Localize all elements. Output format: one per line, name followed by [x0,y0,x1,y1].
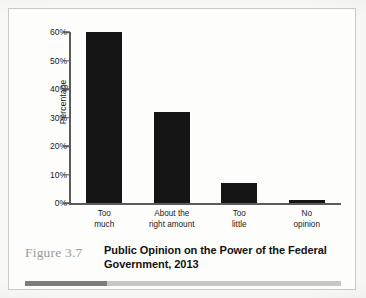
figure-title: Public Opinion on the Power of the Feder… [104,244,350,271]
y-axis-tick-mark [63,60,70,62]
bar-slot [221,32,257,203]
figure-title-line-1: Public Opinion on the Power of the [104,244,285,256]
bar-slot [289,32,325,203]
caption-rule [25,281,341,286]
figure-number: Figure 3.7 [25,245,83,261]
bar-chart: Percentage 0%10%20%30%40%50%60% ToomuchA… [9,9,357,241]
y-axis-tick-mark [63,88,70,90]
y-axis-tick-mark [63,31,70,33]
x-axis-category-label: Toomuch [71,209,139,230]
figure-caption: Figure 3.7 Public Opinion on the Power o… [9,241,357,291]
caption-rule-dark-segment [25,281,107,286]
y-axis-tick-label: 10% [33,170,67,180]
y-axis-tick-label: 40% [33,84,67,94]
bar [221,183,257,203]
bar-slot [154,32,190,203]
y-axis-tick-label: 0% [33,198,67,208]
x-axis-category-label: Toolittle [206,209,274,230]
y-axis-tick-mark [63,202,70,204]
y-axis-tick-label: 60% [33,27,67,37]
bar [154,112,190,203]
x-axis-line [69,203,341,205]
y-axis-tick-label: 30% [33,113,67,123]
y-axis-tick-mark [63,117,70,119]
y-axis-tick-label: 20% [33,141,67,151]
y-axis-tick-labels: 0%10%20%30%40%50%60% [33,9,67,241]
y-axis-tick-mark [63,145,70,147]
bar [289,200,325,203]
bar [86,32,122,203]
y-axis-tick-mark [63,174,70,176]
caption-rule-light-segment [107,281,341,286]
x-axis-category-label: Noopinion [273,209,341,230]
y-axis-tick-label: 50% [33,56,67,66]
figure-frame: Percentage 0%10%20%30%40%50%60% ToomuchA… [8,8,356,290]
bar-series [71,32,341,203]
x-axis-category-label: About theright amount [138,209,206,230]
bar-slot [86,32,122,203]
